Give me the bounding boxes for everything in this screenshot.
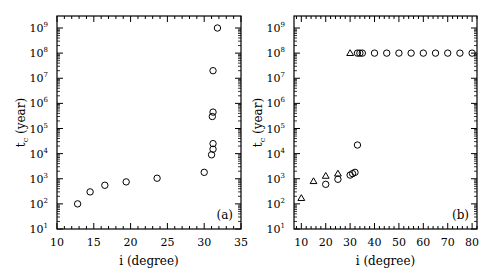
data-point-circle [210,109,216,115]
y-tick-label: 108 [30,46,48,60]
y-tick-exponent: 3 [44,172,48,180]
y-tick-label: 102 [267,197,285,211]
y-tick-label: 105 [30,122,48,136]
data-point-circle [408,50,414,56]
y-tick-exponent: 6 [44,96,49,104]
y-tick-exponent: 6 [281,96,286,104]
y-tick-exponent: 8 [44,46,48,54]
y-tick-exponent: 3 [281,172,285,180]
data-point-circle [335,176,341,182]
y-tick-label: 106 [267,96,286,110]
x-tick-label: 35 [234,236,248,249]
y-tick-label: 101 [267,222,285,236]
x-tick-label: 70 [441,236,455,249]
y-axis-title: tc (year) [14,98,30,147]
x-tick-label: 25 [160,236,174,249]
figure: 101520253035101102103104105106107108109i… [0,0,490,274]
data-point-circle [323,181,329,187]
data-point-circle [432,50,438,56]
data-point-circle [74,201,80,207]
y-tick-label: 109 [267,21,285,35]
data-point-circle [396,50,402,56]
y-axis-title-unit: (year) [251,98,265,138]
y-tick-label: 109 [30,21,48,35]
y-tick-label: 102 [30,197,48,211]
y-tick-label: 103 [30,172,48,186]
data-point-circle [457,50,463,56]
x-tick-label: 60 [416,236,430,249]
y-tick-label: 107 [267,71,285,85]
data-point-circle [354,142,360,148]
y-tick-exponent: 7 [44,71,48,79]
y-tick-label: 104 [30,147,49,161]
data-point-circle [154,175,160,181]
data-point-triangle [322,172,329,178]
y-tick-exponent: 2 [281,197,285,205]
y-axis-title: tc (year) [251,98,267,147]
y-tick-label: 105 [267,122,285,136]
panel-a: 101520253035101102103104105106107108109i… [14,16,248,268]
y-tick-exponent: 1 [281,222,285,230]
x-tick-label: 80 [465,236,479,249]
data-point-circle [87,189,93,195]
y-tick-exponent: 5 [44,122,48,130]
y-tick-label: 108 [267,46,285,60]
data-point-triangle [335,170,342,176]
y-tick-exponent: 4 [44,147,49,155]
x-tick-label: 10 [50,236,64,249]
y-tick-label: 106 [30,96,49,110]
data-point-triangle [298,195,305,201]
y-tick-label: 101 [30,222,48,236]
data-point-triangle [310,178,317,184]
y-tick-exponent: 4 [281,147,286,155]
x-tick-label: 40 [368,236,382,249]
x-axis-title: i (degree) [119,254,178,268]
data-point-circle [214,25,220,31]
x-tick-label: 15 [87,236,101,249]
data-point-circle [371,50,377,56]
data-point-circle [384,50,390,56]
plot-frame [57,16,241,229]
x-axis-title: i (degree) [356,254,415,268]
panel-b: 1020304050607080101102103104105106107108… [251,16,479,268]
x-tick-label: 10 [294,236,308,249]
y-tick-exponent: 7 [281,71,285,79]
y-tick-exponent: 8 [281,46,285,54]
y-tick-exponent: 9 [44,21,48,29]
x-tick-label: 30 [343,236,357,249]
y-tick-label: 103 [267,172,285,186]
x-tick-label: 50 [392,236,406,249]
data-point-circle [201,169,207,175]
x-tick-label: 20 [124,236,138,249]
y-tick-label: 107 [30,71,48,85]
data-point-circle [102,182,108,188]
data-point-circle [123,179,129,185]
data-point-triangle [347,50,354,56]
y-tick-exponent: 2 [44,197,48,205]
panel-label: (a) [216,208,233,222]
y-axis-title-unit: (year) [14,98,28,138]
data-point-circle [420,50,426,56]
y-tick-label: 104 [267,147,286,161]
x-tick-label: 20 [319,236,333,249]
data-point-circle [445,50,451,56]
plot-frame [294,16,477,229]
panel-label: (b) [452,208,469,222]
y-tick-exponent: 5 [281,122,285,130]
x-tick-label: 30 [197,236,211,249]
y-tick-exponent: 1 [44,222,48,230]
y-tick-exponent: 9 [281,21,285,29]
data-point-circle [210,67,216,73]
